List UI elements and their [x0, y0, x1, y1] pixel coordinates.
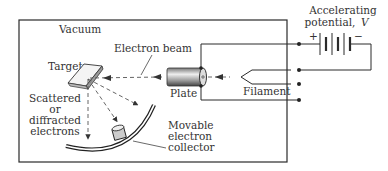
- scattered-ray-3: [88, 79, 136, 104]
- filament: [241, 70, 291, 84]
- beam-arrow-2: [153, 74, 161, 80]
- target-label: Target: [48, 60, 83, 72]
- plate: [167, 68, 207, 86]
- potential-label: Accelerating: [308, 4, 377, 16]
- terminal-4: [297, 98, 301, 102]
- plate-label: Plate: [170, 87, 197, 99]
- minus-sign: −: [354, 30, 363, 42]
- movable-electron-collector: [112, 124, 127, 140]
- electron-beam-label: Electron beam: [114, 42, 192, 54]
- plus-sign: +: [309, 30, 318, 42]
- electron-beam: [90, 77, 162, 78]
- scattered-label-4: electrons: [30, 125, 79, 137]
- plate-wire-top: [201, 44, 299, 68]
- potential-label-2: potential,: [305, 16, 356, 28]
- collector-leader: [133, 141, 166, 148]
- electron-beam-leader: [141, 55, 152, 75]
- beam-arrow-3: [215, 74, 223, 80]
- beam-arrow: [103, 75, 111, 81]
- terminal-3: [297, 82, 301, 86]
- filament-label: Filament: [243, 85, 291, 97]
- scattered-ray-2: [88, 79, 116, 120]
- collector-label-3: collector: [168, 141, 216, 153]
- vacuum-label: Vacuum: [58, 23, 101, 35]
- potential-variable: V: [361, 16, 370, 28]
- diagram: Vacuum Electron beam Target Scattered or…: [0, 0, 388, 171]
